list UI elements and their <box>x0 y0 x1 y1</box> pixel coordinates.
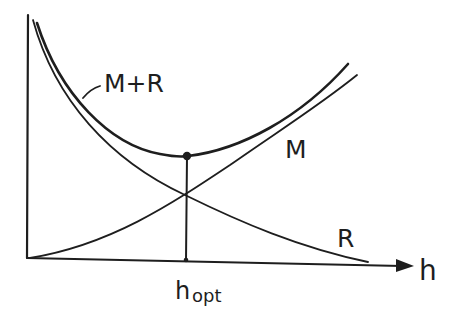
x-axis-arrow-icon <box>396 259 414 272</box>
diagram-canvas: M+R M R h h opt <box>0 0 457 326</box>
label-h-opt: h <box>175 277 190 305</box>
optimum-axis-dot <box>184 258 189 263</box>
y-axis <box>27 15 28 258</box>
m-plus-r-leader-line <box>83 86 100 98</box>
optimum-dot <box>183 152 191 160</box>
optimum-vertical-line <box>186 156 187 261</box>
label-h-opt-subscript: opt <box>192 285 222 306</box>
label-x-axis: h <box>419 254 437 287</box>
label-r: R <box>337 224 354 253</box>
label-m: M <box>285 135 307 164</box>
x-axis <box>27 258 402 266</box>
curve-r <box>33 20 368 262</box>
label-m-plus-r: M+R <box>104 69 164 98</box>
